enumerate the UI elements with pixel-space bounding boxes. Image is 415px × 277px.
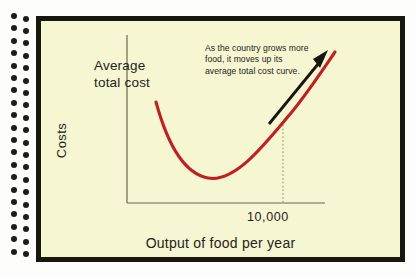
binding-hole [11, 149, 17, 155]
binding-hole [23, 189, 29, 195]
binding-hole [23, 214, 29, 220]
binding-hole [23, 40, 29, 46]
binding-hole [23, 251, 29, 257]
screenshot-canvas: Average total cost As the country grows … [0, 0, 415, 277]
binding-hole [11, 187, 17, 193]
binding-hole [11, 13, 17, 19]
x-axis-title: Output of food per year [41, 235, 400, 251]
binding-hole [11, 249, 17, 255]
binding-hole [23, 140, 29, 146]
binding-hole [11, 75, 17, 81]
binding-hole [11, 211, 17, 217]
binding-hole [11, 137, 17, 143]
binding-hole [11, 125, 17, 131]
binding-hole [11, 87, 17, 93]
binding-hole [23, 78, 29, 84]
binding-hole [11, 236, 17, 242]
y-axis-title: Costs [54, 108, 69, 174]
binding-hole [11, 63, 17, 69]
binding-hole [23, 239, 29, 245]
binding-hole [11, 38, 17, 44]
binding-hole [11, 25, 17, 31]
binding-hole [23, 90, 29, 96]
notebook-binding [0, 0, 40, 277]
x-axis-tick-label: 10,000 [247, 210, 289, 224]
binding-hole [11, 199, 17, 205]
curve-label: Average total cost [94, 57, 150, 91]
binding-hole [11, 224, 17, 230]
binding-hole [23, 16, 29, 22]
binding-hole [11, 174, 17, 180]
binding-hole [11, 112, 17, 118]
binding-hole [23, 226, 29, 232]
binding-hole [11, 50, 17, 56]
binding-hole [23, 53, 29, 59]
binding-hole [23, 28, 29, 34]
annotation-text: As the country grows more food, it moves… [205, 43, 308, 77]
binding-hole [23, 202, 29, 208]
binding-hole [23, 65, 29, 71]
binding-hole [23, 102, 29, 108]
binding-hole [23, 164, 29, 170]
binding-hole [23, 115, 29, 121]
notebook-page: Average total cost As the country grows … [41, 21, 400, 257]
binding-hole [23, 177, 29, 183]
binding-hole [11, 162, 17, 168]
binding-hole [23, 152, 29, 158]
binding-hole [11, 100, 17, 106]
binding-hole [23, 127, 29, 133]
figure-frame: Average total cost As the country grows … [36, 16, 405, 262]
